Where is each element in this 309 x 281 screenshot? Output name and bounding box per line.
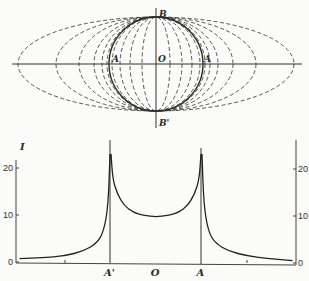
figure-canvas: B B' O A A 0102001020 A'OA I bbox=[0, 0, 309, 281]
x-axis bbox=[16, 263, 296, 265]
y-tick-label-left: 0 bbox=[8, 257, 13, 267]
y-tick-label-right: 20 bbox=[298, 164, 308, 174]
y-tick-label-right: 10 bbox=[298, 211, 308, 221]
intensity-curve bbox=[20, 154, 293, 261]
y-tick-label-right: 0 bbox=[298, 258, 303, 268]
label-O-top: O bbox=[158, 54, 166, 64]
ellipse-diagram: B B' O A A bbox=[12, 8, 302, 128]
y-tick-label-left: 10 bbox=[3, 210, 13, 220]
intensity-chart: 0102001020 A'OA I bbox=[3, 140, 308, 278]
x-tick-label: O bbox=[151, 267, 160, 278]
x-tick-labels: A'OA bbox=[103, 267, 205, 278]
x-tick-label: A bbox=[196, 267, 205, 278]
y-axis-label: I bbox=[19, 141, 25, 152]
label-A-right: A bbox=[203, 54, 211, 64]
y-tick-label-left: 20 bbox=[3, 163, 13, 173]
x-tick-label: A' bbox=[103, 267, 115, 278]
label-A-left: A bbox=[111, 54, 119, 64]
axis-ticks: 0102001020 bbox=[3, 163, 308, 268]
figure: B B' O A A 0102001020 A'OA I bbox=[0, 0, 309, 281]
label-B: B bbox=[158, 9, 167, 19]
label-B-prime: B' bbox=[158, 118, 169, 128]
